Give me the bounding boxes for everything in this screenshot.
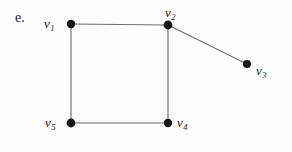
node-label-v5-sub: 5 <box>51 122 55 132</box>
node-label-v1: v1 <box>44 17 54 30</box>
node-v5[interactable] <box>67 119 76 128</box>
edge-v1-v2 <box>71 24 168 25</box>
node-label-v3-letter: v <box>256 63 262 78</box>
edge-group <box>71 24 247 123</box>
node-label-v1-letter: v <box>44 16 50 31</box>
node-group <box>67 20 251 128</box>
node-label-v4: v4 <box>177 116 187 129</box>
node-label-v4-letter: v <box>177 115 183 130</box>
node-v1[interactable] <box>67 20 75 28</box>
node-v3[interactable] <box>243 60 251 68</box>
edge-v2-v3 <box>168 25 247 64</box>
node-label-v2: v2 <box>165 6 175 19</box>
node-label-v2-letter: v <box>165 5 171 20</box>
node-label-v4-sub: 4 <box>183 122 187 132</box>
graph-figure: e. v1 v2 v3 v4 v5 <box>0 0 292 152</box>
node-label-v2-sub: 2 <box>171 12 175 22</box>
node-v4[interactable] <box>164 119 172 127</box>
node-label-v3: v3 <box>256 64 266 77</box>
node-label-v5: v5 <box>45 116 55 129</box>
node-label-v3-sub: 3 <box>262 70 266 80</box>
node-label-v1-sub: 1 <box>50 23 54 33</box>
node-label-v5-letter: v <box>45 115 51 130</box>
